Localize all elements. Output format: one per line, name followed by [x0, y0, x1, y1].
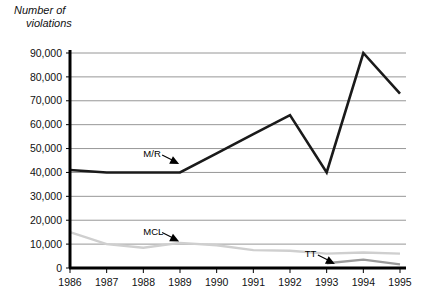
- series-annotation-label: TT: [305, 248, 317, 259]
- y-tick-label: 10,000: [30, 238, 62, 250]
- annotation-arrow-head: [325, 256, 335, 264]
- series-lines-group: [70, 53, 400, 264]
- x-tick-label: 1989: [168, 276, 192, 288]
- gridlines-group: [66, 53, 406, 268]
- annotation-arrow-head: [169, 234, 179, 242]
- y-tick-labels-group: 010,00020,00030,00040,00050,00060,00070,…: [30, 47, 62, 274]
- y-tick-label: 90,000: [30, 47, 62, 59]
- y-tick-label: 60,000: [30, 118, 62, 130]
- x-tick-label: 1987: [95, 276, 119, 288]
- series-annotation-label: M/R: [143, 148, 161, 159]
- annotation-arrow-head: [169, 156, 179, 164]
- x-tick-label: 1986: [58, 276, 82, 288]
- y-tick-label: 70,000: [30, 94, 62, 106]
- x-tick-label: 1992: [278, 276, 302, 288]
- x-tick-label: 1993: [315, 276, 339, 288]
- y-tick-label: 30,000: [30, 190, 62, 202]
- y-tick-label: 80,000: [30, 71, 62, 83]
- y-tick-label: 20,000: [30, 214, 62, 226]
- x-tick-label: 1991: [242, 276, 266, 288]
- series-annotation-label: MCL: [143, 226, 163, 237]
- line-chart-plot: 010,00020,00030,00040,00050,00060,00070,…: [0, 0, 424, 303]
- x-tick-labels-group: 1986198719881989199019911992199319941995: [58, 276, 412, 288]
- chart-container: Number of violations 010,00020,00030,000…: [0, 0, 424, 303]
- annotations-group: M/RMCLTT: [143, 148, 335, 264]
- y-tick-label: 0: [56, 262, 62, 274]
- series-line-tt: [327, 260, 400, 265]
- series-line-mcl: [70, 232, 400, 254]
- x-tick-label: 1990: [205, 276, 229, 288]
- x-tick-label: 1988: [132, 276, 156, 288]
- series-line-m-r: [70, 53, 400, 172]
- x-tick-label: 1994: [352, 276, 376, 288]
- y-tick-label: 40,000: [30, 166, 62, 178]
- x-tick-label: 1995: [388, 276, 412, 288]
- y-tick-label: 50,000: [30, 142, 62, 154]
